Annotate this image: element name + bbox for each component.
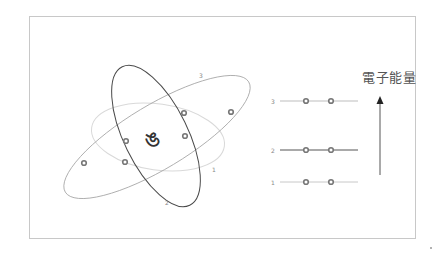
electron	[82, 161, 87, 166]
energy-levels	[280, 99, 358, 185]
level-label-2: 2	[271, 147, 275, 154]
orbit-label-3: 3	[199, 72, 203, 79]
electron	[304, 180, 309, 185]
electron	[329, 180, 334, 185]
orbit-label-1: 1	[212, 166, 216, 173]
electron	[182, 111, 187, 116]
level-label-1: 1	[271, 179, 275, 186]
energy-arrow-icon	[377, 96, 384, 175]
electron	[304, 99, 309, 104]
atom-diagram	[0, 0, 448, 258]
corner-mark	[430, 247, 432, 249]
electron	[329, 148, 334, 153]
level-label-3: 3	[271, 98, 275, 105]
electron	[229, 110, 234, 115]
energy-title: 電子能量	[362, 67, 416, 86]
orbit-label-2: 2	[165, 199, 169, 206]
electron	[329, 99, 334, 104]
electron	[183, 134, 188, 139]
electron	[123, 160, 128, 165]
electron	[304, 148, 309, 153]
electron	[124, 139, 129, 144]
